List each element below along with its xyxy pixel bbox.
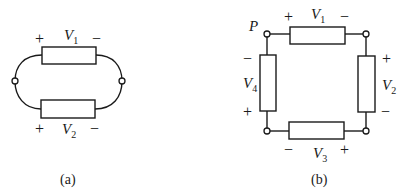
v3-b-label: V3	[313, 145, 327, 164]
v1-a-plus: +	[35, 30, 44, 47]
v2-a-minus: −	[90, 120, 99, 137]
resistor-v3-b	[289, 122, 344, 139]
v3-b-plus: +	[340, 141, 349, 158]
wire-a-bottom-left	[15, 81, 41, 109]
v1-a-label: V1	[64, 27, 78, 46]
resistor-v1-a	[42, 47, 96, 64]
resistor-v4-b	[260, 55, 276, 111]
v1-a-minus: −	[92, 30, 101, 47]
v4-b-minus: −	[243, 50, 252, 67]
wire-a-top-left	[15, 55, 42, 81]
node-a-right	[119, 78, 125, 84]
node-b-top-right	[363, 31, 369, 37]
v2-b-label: V2	[382, 77, 396, 96]
node-p-label: P	[248, 18, 258, 34]
wire-a-top-right	[96, 55, 122, 81]
node-b-bottom-right	[363, 128, 369, 134]
v2-b-plus: +	[382, 50, 391, 67]
v2-a-label: V2	[62, 121, 76, 140]
v1-b-label: V1	[311, 6, 325, 25]
caption-a: (a)	[60, 172, 76, 188]
v3-b-minus: −	[284, 141, 293, 158]
caption-b: (b)	[311, 172, 328, 188]
v4-b-label: V4	[243, 75, 257, 94]
v2-b-minus: −	[381, 103, 390, 120]
v4-b-plus: +	[243, 103, 252, 120]
circuit-diagrams: + V1 − + V2 − (a) P + V1 − + V2	[0, 0, 408, 190]
resistor-v2-a	[41, 100, 95, 118]
v1-b-minus: −	[340, 8, 349, 25]
node-b-bottom-left	[264, 128, 270, 134]
node-a-left	[12, 78, 18, 84]
circuit-a: + V1 − + V2 − (a)	[12, 27, 125, 188]
resistor-v1-b	[290, 27, 345, 44]
wire-a-bottom-right	[95, 81, 122, 109]
circuit-b: P + V1 − + V2 − − V3 + − V4 + (b)	[243, 6, 396, 188]
node-p	[264, 31, 270, 37]
v2-a-plus: +	[35, 120, 44, 137]
v1-b-plus: +	[284, 8, 293, 25]
resistor-v2-b	[358, 56, 375, 112]
